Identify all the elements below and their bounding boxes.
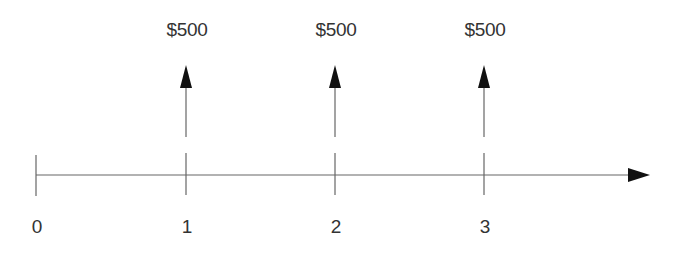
period-label-3: 3 xyxy=(480,216,490,238)
cash-flow-arrow-3 xyxy=(478,65,490,137)
up-arrow-icon xyxy=(329,65,341,88)
period-label-2: 2 xyxy=(331,216,341,238)
cash-flow-amount-1: $500 xyxy=(166,19,207,41)
cash-flow-amount-3: $500 xyxy=(464,19,505,41)
up-arrow-icon xyxy=(180,65,192,88)
cash-flow-amount-2: $500 xyxy=(315,19,356,41)
period-label-1: 1 xyxy=(182,216,192,238)
cash-flow-arrow-1 xyxy=(180,65,192,137)
cash-flow-arrow-2 xyxy=(329,65,341,137)
up-arrow-icon xyxy=(478,65,490,88)
period-label-0: 0 xyxy=(32,216,42,238)
axis-arrowhead-icon xyxy=(628,168,650,182)
